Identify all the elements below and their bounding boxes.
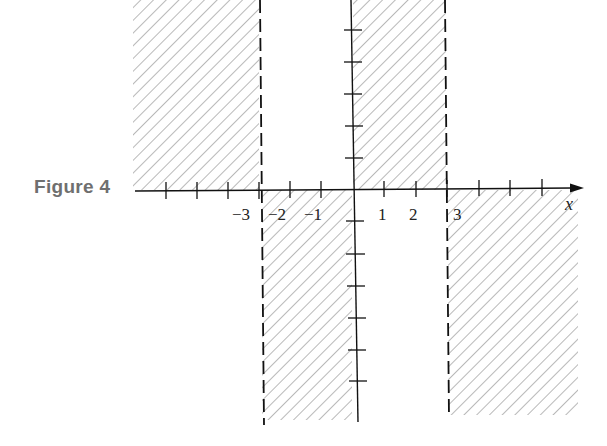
graph: −3 −2 −1 1 2 3 x <box>0 0 607 446</box>
shaded-region-lower-right <box>448 190 578 415</box>
shaded-region-lower-middle <box>262 190 352 420</box>
tick-label-minus-2: −2 <box>268 205 286 224</box>
tick-label-minus-1: −1 <box>304 205 322 224</box>
shaded-region-upper-middle <box>353 0 446 190</box>
tick-label-2: 2 <box>409 205 418 224</box>
tick-label-3: 3 <box>453 205 462 224</box>
shaded-regions <box>133 0 578 420</box>
tick-label-minus-3: −3 <box>232 205 250 224</box>
x-axis-label: x <box>564 194 573 214</box>
shaded-region-upper-left <box>133 0 259 190</box>
tick-label-1: 1 <box>378 205 387 224</box>
